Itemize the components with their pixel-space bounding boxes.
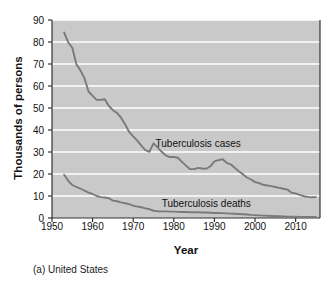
tuberculosis-line-chart: Thousands of persons 0102030405060708090… bbox=[0, 0, 329, 286]
figure-caption: (a) United States bbox=[33, 264, 108, 275]
x-tick-1950: 1950 bbox=[41, 221, 63, 232]
x-tick-1990: 1990 bbox=[203, 221, 225, 232]
x-tick-2010: 2010 bbox=[285, 221, 307, 232]
x-tick-1960: 1960 bbox=[81, 221, 103, 232]
x-tick-2000: 2000 bbox=[244, 221, 266, 232]
x-tick-1980: 1980 bbox=[163, 221, 185, 232]
series-label-deaths: Tuberculosis deaths bbox=[162, 198, 251, 209]
x-tick-1970: 1970 bbox=[122, 221, 144, 232]
series-label-cases: Tuberculosis cases bbox=[156, 138, 241, 149]
x-axis-title: Year bbox=[52, 244, 320, 256]
